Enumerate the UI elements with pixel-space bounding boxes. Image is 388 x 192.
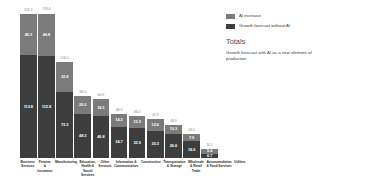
bar-segment-ai-increase[interactable]: 7.9	[183, 134, 200, 141]
totals-description: Growth forecast with AI as a new element…	[226, 50, 312, 63]
bar-segment-growth-without-ai[interactable]: 112.8	[38, 56, 55, 158]
bar-segment-ai-increase[interactable]: 12.6	[147, 119, 164, 130]
bar-stack: 13.332.9	[129, 116, 146, 158]
bar-total-label: 159.6	[38, 8, 55, 12]
chart-plot-area: 159.145.3113.8159.646.8112.8106.132.873.…	[0, 0, 218, 192]
bar-segment-growth-without-ai[interactable]: 26.6	[165, 134, 182, 158]
bar-column[interactable]: 46.213.332.9	[129, 8, 146, 158]
legend-swatch-icon-ai-increase	[226, 14, 235, 19]
bar-column[interactable]: 42.912.630.3	[147, 8, 164, 158]
bar-total-label: 42.9	[147, 114, 164, 118]
bar-total-label: 36.9	[165, 120, 182, 124]
bar-total-label: 48.9	[111, 109, 128, 113]
category-axis-labels: Business ServicesFinance & InsuranceManu…	[20, 160, 218, 190]
bar-total-label: 64.9	[93, 94, 110, 98]
category-label: Manufacturing	[54, 160, 77, 190]
bar-column[interactable]: 64.918.146.8	[93, 8, 110, 158]
bar-stack: 18.146.8	[93, 99, 110, 158]
bar-stack: 5.46.7	[201, 149, 218, 158]
bars-container: 159.145.3113.8159.646.8112.8106.132.873.…	[20, 8, 218, 158]
bar-total-label: 46.2	[129, 111, 146, 115]
bar-segment-ai-increase[interactable]: 20.3	[74, 96, 91, 114]
category-label: Finance & Insurance	[37, 160, 53, 190]
bar-segment-growth-without-ai[interactable]: 73.3	[56, 92, 73, 158]
bar-total-label: 26.5	[183, 129, 200, 133]
bar-segment-growth-without-ai[interactable]: 34.7	[111, 127, 128, 158]
bar-segment-ai-increase[interactable]: 32.8	[56, 62, 73, 92]
bar-total-label: 159.1	[20, 9, 37, 13]
bar-segment-ai-increase[interactable]: 45.3	[20, 14, 37, 55]
bar-stack: 32.873.3	[56, 62, 73, 158]
bar-column[interactable]: 106.132.873.3	[56, 8, 73, 158]
bar-stack: 10.326.6	[165, 125, 182, 158]
legend-label-ai-increase: AI increase	[239, 14, 261, 18]
bar-total-label: 10.1	[201, 144, 218, 148]
bar-stack: 7.918.6	[183, 134, 200, 158]
category-label: Business Services	[20, 160, 35, 190]
category-label: Education, Health & Social Services	[79, 160, 96, 190]
bar-stack: 46.8112.8	[38, 14, 55, 158]
bar-stack: 12.630.3	[147, 119, 164, 158]
bar-column[interactable]: 10.15.46.7	[201, 8, 218, 158]
chart-root: 159.145.3113.8159.646.8112.8106.132.873.…	[0, 0, 388, 192]
bar-segment-ai-increase[interactable]: 46.8	[38, 14, 55, 56]
category-label: Other Services	[98, 160, 112, 190]
bar-segment-ai-increase[interactable]: 10.3	[165, 125, 182, 134]
bar-total-label: 68.5	[74, 91, 91, 95]
category-label: Transportation & Storage	[163, 160, 186, 190]
bar-stack: 45.3113.8	[20, 14, 37, 158]
bar-stack: 14.234.7	[111, 114, 128, 158]
bar-segment-growth-without-ai[interactable]: 18.6	[183, 141, 200, 158]
side-panel: AI increase Growth forecast without AI T…	[218, 0, 388, 192]
category-label: Wholesale & Retail Trade	[188, 160, 205, 190]
bar-segment-growth-without-ai[interactable]: 113.8	[20, 55, 37, 158]
bar-column[interactable]: 159.646.8112.8	[38, 8, 55, 158]
bar-segment-ai-increase[interactable]: 18.1	[93, 99, 110, 115]
totals-heading: Totals	[226, 38, 382, 45]
legend-item-ai-increase: AI increase	[226, 14, 382, 19]
bar-stack: 20.348.3	[74, 96, 91, 158]
bar-column[interactable]: 159.145.3113.8	[20, 8, 37, 158]
bar-column[interactable]: 36.910.326.6	[165, 8, 182, 158]
legend-item-growth-without-ai: Growth forecast without AI	[226, 24, 382, 29]
bar-segment-growth-without-ai[interactable]: 6.7	[201, 154, 218, 158]
category-label: Information & Communication	[113, 160, 138, 190]
bar-total-label: 106.1	[56, 57, 73, 61]
bar-column[interactable]: 68.520.348.3	[74, 8, 91, 158]
bar-segment-growth-without-ai[interactable]: 48.3	[74, 114, 91, 158]
bar-column[interactable]: 48.914.234.7	[111, 8, 128, 158]
bar-segment-ai-increase[interactable]: 13.3	[129, 116, 146, 128]
bar-column[interactable]: 26.57.918.6	[183, 8, 200, 158]
category-label: Construction	[140, 160, 161, 190]
legend-swatch-icon-growth-without-ai	[226, 24, 235, 29]
bar-segment-growth-without-ai[interactable]: 30.3	[147, 131, 164, 158]
bar-segment-growth-without-ai[interactable]: 32.9	[129, 128, 146, 158]
bar-segment-growth-without-ai[interactable]: 46.8	[93, 116, 110, 158]
bar-segment-ai-increase[interactable]: 14.2	[111, 114, 128, 127]
legend-label-growth-without-ai: Growth forecast without AI	[239, 24, 290, 28]
